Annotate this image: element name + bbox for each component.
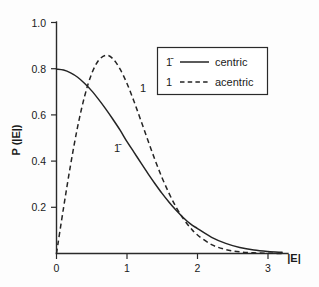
legend-key-acentric: 1 <box>166 76 172 88</box>
y-axis-title: P (|E|) <box>10 124 22 155</box>
x-tick-label-0: 0 <box>54 262 60 274</box>
annotation-acentric-label: 1 <box>140 82 146 94</box>
legend-label-acentric: acentric <box>215 76 254 88</box>
distribution-chart: 1.0 0.8 0.6 0.4 0.2 0 1 2 3 |E| P (|E|) <box>0 0 319 287</box>
y-tick-labels: 1.0 0.8 0.6 0.4 0.2 <box>31 17 46 214</box>
y-tick-label-1.0: 1.0 <box>31 17 46 29</box>
legend-label-centric: centric <box>215 56 248 68</box>
annotation-centric: 1̄ <box>114 142 122 154</box>
annotation-acentric: 1 <box>140 82 146 94</box>
x-tick-label-1: 1 <box>124 262 130 274</box>
legend: 1̄ centric 1 acentric <box>158 48 268 95</box>
annotation-centric-label: 1̄ <box>114 142 122 154</box>
y-tick-label-0.4: 0.4 <box>31 155 46 167</box>
chart-figure: 1.0 0.8 0.6 0.4 0.2 0 1 2 3 |E| P (|E|) <box>0 0 319 287</box>
y-tick-label-0.2: 0.2 <box>31 201 46 213</box>
y-tick-label-0.8: 0.8 <box>31 63 46 75</box>
x-tick-label-2: 2 <box>195 262 201 274</box>
y-tick-group <box>51 23 57 208</box>
x-axis-title: |E| <box>287 252 301 264</box>
curve-centric <box>57 69 283 252</box>
x-tick-label-3: 3 <box>265 262 271 274</box>
x-tick-group <box>57 254 269 260</box>
y-tick-label-0.6: 0.6 <box>31 109 46 121</box>
x-tick-labels: 0 1 2 3 <box>54 262 272 274</box>
